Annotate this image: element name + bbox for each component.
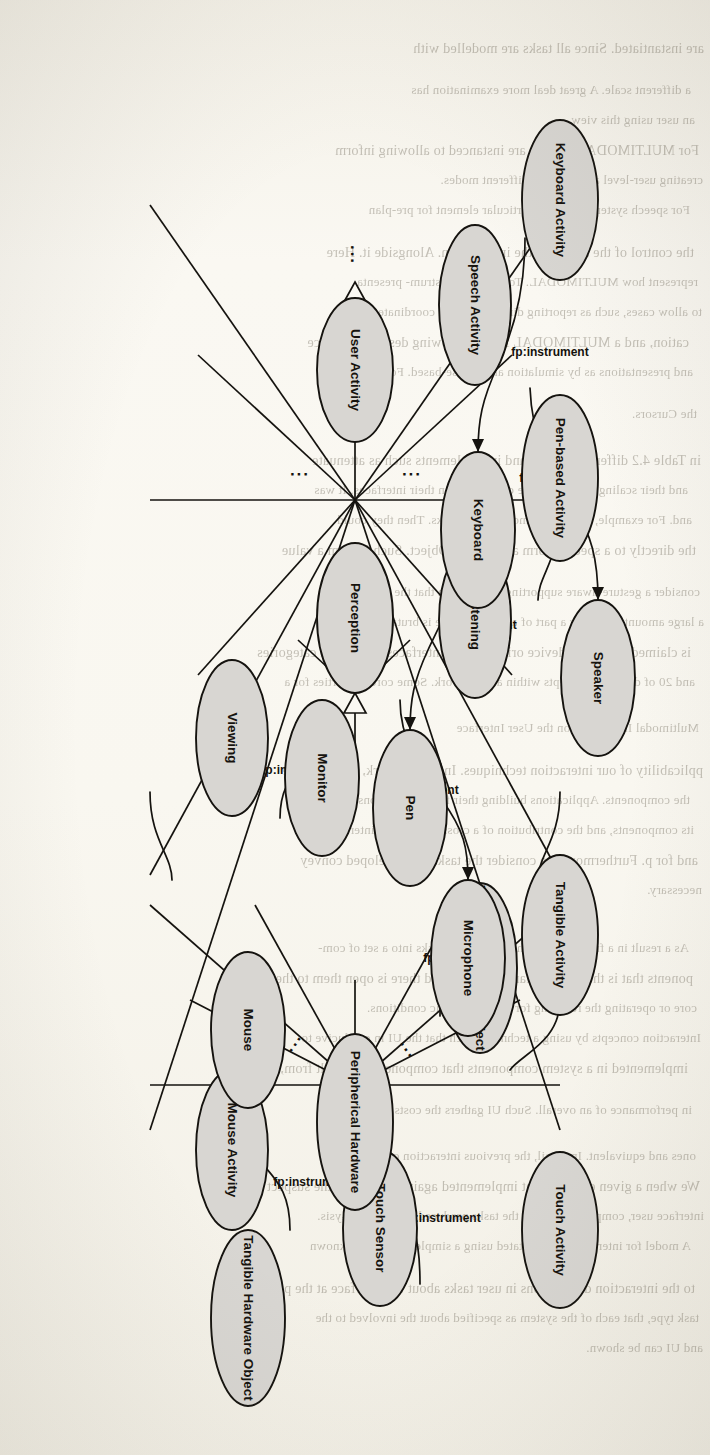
node-label: Speaker	[591, 652, 606, 705]
node-label: User Activity	[348, 329, 363, 412]
ellipsis-user-activity: ... ...	[288, 469, 420, 488]
node-label: Tangible Hardware Object	[241, 1235, 256, 1401]
svg-text:...: ...	[284, 1034, 311, 1061]
node-label: Keyboard	[471, 499, 486, 561]
node-keyboard-activity[interactable]: Keyboard Activity	[522, 120, 598, 280]
nodes: User Activity Keyboard Activity Pen-base…	[196, 120, 635, 1406]
node-label: Peripherical Hardware	[348, 1051, 363, 1194]
node-peripherical-hardware[interactable]: Peripherical Hardware	[317, 1034, 393, 1210]
node-tangible-hardware-object-2[interactable]: Tangible Hardware Object	[211, 1230, 285, 1406]
node-label: Mouse Activity	[225, 1103, 240, 1198]
node-user-activity[interactable]: User Activity	[317, 298, 393, 442]
node-label: Touch Activity	[553, 1184, 568, 1276]
uml-diagram: fp:instrument fp:instrument fp:instrumen…	[0, 0, 710, 1455]
node-perception[interactable]: Perception	[317, 543, 393, 693]
node-label: Mouse	[241, 1009, 256, 1052]
svg-text:...: ...	[347, 245, 366, 265]
node-label: Monitor	[315, 753, 330, 803]
svg-text:...: ...	[400, 469, 420, 488]
node-speaker[interactable]: Speaker	[561, 600, 635, 756]
node-label: Pen	[403, 796, 418, 821]
node-monitor[interactable]: Monitor	[285, 700, 359, 856]
node-label: Viewing	[225, 713, 240, 764]
node-viewing[interactable]: Viewing	[196, 660, 268, 816]
node-label: Tangible Activity	[553, 882, 568, 989]
node-label: Keyboard Activity	[553, 143, 568, 258]
svg-text:fp:instrument: fp:instrument	[511, 345, 588, 359]
svg-text:...: ...	[396, 1034, 423, 1061]
svg-text:...: ...	[288, 469, 308, 488]
node-mouse[interactable]: Mouse	[211, 952, 285, 1108]
node-label: Speech Activity	[468, 255, 483, 356]
node-touch-activity[interactable]: Touch Activity	[522, 1152, 598, 1308]
node-speech-activity[interactable]: Speech Activity	[439, 225, 511, 385]
node-keyboard[interactable]: Keyboard	[441, 452, 515, 608]
figure-page: are instantiated. Since all tasks are mo…	[0, 0, 710, 1455]
node-pen-based-activity[interactable]: Pen-based Activity	[522, 395, 598, 561]
node-microphone[interactable]: Microphone	[431, 880, 505, 1036]
node-label: Perception	[348, 583, 363, 653]
node-pen[interactable]: Pen	[373, 730, 447, 886]
node-label: Microphone	[461, 920, 476, 997]
node-tangible-activity[interactable]: Tangible Activity	[522, 855, 598, 1015]
node-label: Pen-based Activity	[553, 418, 568, 539]
